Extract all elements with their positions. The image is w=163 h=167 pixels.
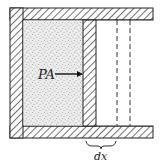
piston-cylinder-diagram: PA dx xyxy=(0,0,163,167)
displacement-label: dx xyxy=(94,150,108,163)
force-label: PA xyxy=(37,67,55,82)
dx-brace xyxy=(86,141,116,149)
piston xyxy=(83,20,96,126)
